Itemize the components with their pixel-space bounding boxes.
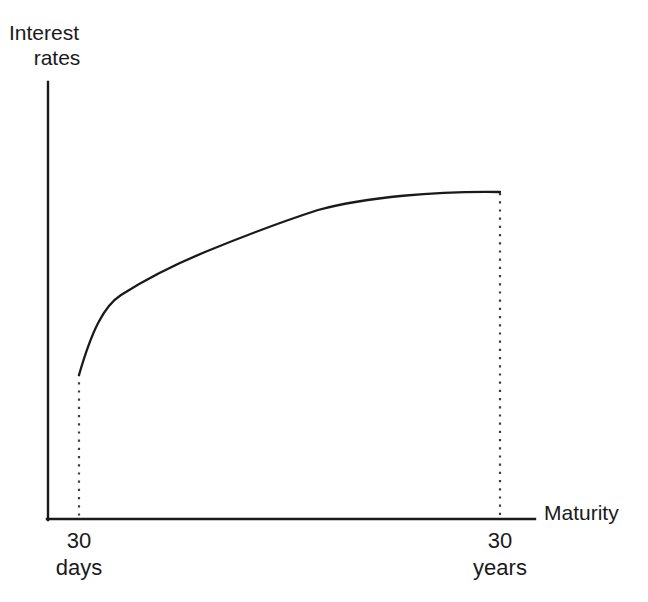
x-tick-label-30-years: 30 years — [440, 527, 560, 581]
y-axis-label-line-1: Interest — [9, 20, 139, 45]
yield-curve-chart: Interest rates Maturity 30 days 30 years — [0, 0, 648, 602]
yield-curve-line — [79, 192, 500, 375]
x-tick-right-unit: years — [440, 554, 560, 581]
x-axis-label: Maturity — [544, 500, 619, 525]
x-tick-left-value: 30 — [19, 527, 139, 554]
y-axis-label-line-2: rates — [9, 45, 105, 70]
y-axis-label: Interest rates — [9, 20, 139, 70]
x-tick-left-unit: days — [19, 554, 139, 581]
x-tick-label-30-days: 30 days — [19, 527, 139, 581]
x-tick-right-value: 30 — [440, 527, 560, 554]
